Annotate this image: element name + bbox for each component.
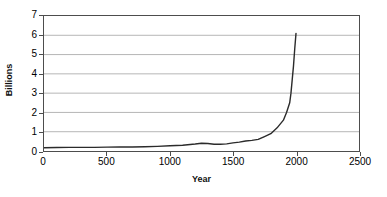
x-tick-label: 1000 [159,156,181,168]
x-axis-tick-labels: 05001000150020002500 [0,156,387,170]
x-tick-label: 1500 [222,156,244,168]
x-axis-title-text: Year [192,174,211,184]
x-tick-label: 2500 [349,156,371,168]
population-line-chart: Billions 01234567 05001000150020002500 Y… [0,0,387,197]
x-tick-mark [170,152,171,156]
y-tick-mark [39,15,43,16]
y-tick-mark [39,74,43,75]
plot-svg [44,16,359,151]
y-tick-label: 2 [31,108,37,118]
y-axis-title: Billions [0,0,18,160]
y-tick-mark [39,54,43,55]
y-tick-label: 4 [31,69,37,79]
y-axis-title-text: Billions [4,64,14,97]
x-tick-mark [233,152,234,156]
y-tick-mark [39,113,43,114]
x-tick-label: 2000 [285,156,307,168]
y-tick-label: 1 [31,127,37,137]
x-tick-mark [360,152,361,156]
y-tick-label: 7 [31,10,37,20]
series-line [44,33,296,147]
x-tick-label: 0 [40,156,46,168]
y-tick-mark [39,35,43,36]
y-tick-label: 3 [31,88,37,98]
data-series-group [44,33,296,147]
x-tick-mark [106,152,107,156]
x-tick-label: 500 [98,156,115,168]
x-tick-mark [297,152,298,156]
y-tick-label: 6 [31,30,37,40]
y-tick-mark [39,93,43,94]
x-axis-title: Year [43,174,360,184]
y-tick-mark [39,132,43,133]
y-tick-label: 5 [31,49,37,59]
gridlines [44,35,359,131]
plot-area [43,15,360,152]
y-tick-mark [39,152,43,153]
